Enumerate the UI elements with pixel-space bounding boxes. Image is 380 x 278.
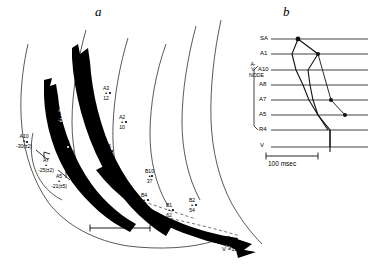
row-label-a8: A8 bbox=[259, 81, 266, 87]
row-label-r4: R4 bbox=[259, 126, 267, 132]
row-label-a5: A5 bbox=[259, 111, 266, 117]
scale-bar-b bbox=[266, 153, 318, 160]
row-label-sa: SA bbox=[260, 35, 268, 41]
row-label-a1: A1 bbox=[260, 50, 267, 56]
row-label-v: V bbox=[260, 142, 264, 148]
av-node-bracket-label: A-V NODE bbox=[249, 62, 257, 78]
row-label-a7: A7 bbox=[259, 96, 266, 102]
scale-bar-b-label: 100 msec bbox=[268, 160, 296, 167]
figure-container: a b bbox=[0, 0, 380, 278]
panel-b-drawing bbox=[0, 0, 380, 278]
